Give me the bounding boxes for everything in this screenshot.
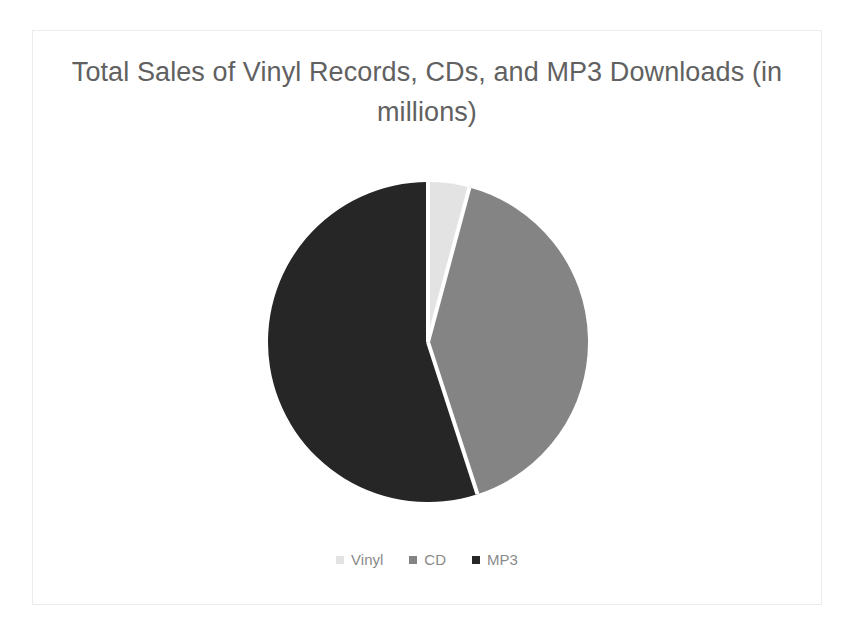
- legend-swatch-icon: [409, 556, 417, 564]
- legend-item-label: MP3: [487, 551, 518, 569]
- legend-item-label: CD: [424, 551, 446, 569]
- chart-canvas: Total Sales of Vinyl Records, CDs, and M…: [0, 0, 852, 633]
- legend-swatch-icon: [336, 556, 344, 564]
- legend-item-label: Vinyl: [351, 551, 383, 569]
- legend-swatch-icon: [472, 556, 480, 564]
- chart-title: Total Sales of Vinyl Records, CDs, and M…: [32, 52, 822, 132]
- chart-legend: VinylCDMP3: [32, 551, 822, 569]
- pie-chart-plot-area: [268, 182, 588, 502]
- pie-chart-svg: [268, 182, 588, 502]
- legend-item-vinyl[interactable]: Vinyl: [336, 551, 383, 569]
- legend-item-mp3[interactable]: MP3: [472, 551, 518, 569]
- legend-item-cd[interactable]: CD: [409, 551, 446, 569]
